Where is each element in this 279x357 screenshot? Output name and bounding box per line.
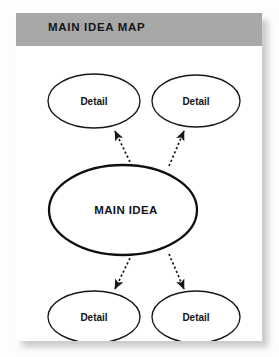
main-idea-map-card: MAIN IDEA MAP Detail xyxy=(16,13,262,341)
diagram-canvas: Detail Detail MAIN IDEA Detail xyxy=(16,46,262,341)
connector-to-bottom-right xyxy=(169,254,184,289)
main-idea-label: MAIN IDEA xyxy=(94,204,158,216)
node-detail-bottom-left[interactable]: Detail xyxy=(48,291,140,341)
card-header-band: MAIN IDEA MAP xyxy=(16,13,262,46)
connector-to-bottom-left xyxy=(115,254,132,289)
node-main-idea[interactable]: MAIN IDEA xyxy=(49,165,197,255)
concept-map-svg: Detail Detail MAIN IDEA Detail xyxy=(16,46,262,341)
detail-top-right-label: Detail xyxy=(182,96,209,107)
connector-to-top-left xyxy=(115,131,132,166)
page-background: MAIN IDEA MAP Detail xyxy=(0,0,279,357)
node-detail-bottom-right[interactable]: Detail xyxy=(152,291,240,341)
detail-bottom-left-label: Detail xyxy=(80,312,107,323)
node-detail-top-right[interactable]: Detail xyxy=(152,75,240,127)
connector-to-top-right xyxy=(169,131,184,166)
page-title: MAIN IDEA MAP xyxy=(48,21,145,33)
detail-bottom-right-label: Detail xyxy=(182,312,209,323)
detail-top-left-label: Detail xyxy=(80,96,107,107)
node-detail-top-left[interactable]: Detail xyxy=(48,74,140,128)
